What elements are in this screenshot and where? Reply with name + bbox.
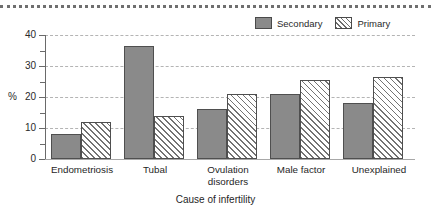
x-tick-label-tubal: Tubal <box>115 164 195 176</box>
plot-area: 40 30 20 10 0 % Endometriosis Tubal Ovul… <box>0 0 431 216</box>
y-tick-label-40: 40 <box>14 30 36 40</box>
y-tick-minor-5 <box>40 144 45 145</box>
y-axis-title: % <box>8 91 17 102</box>
y-tick-major-10 <box>39 128 45 129</box>
bar-unexplained-secondary[interactable] <box>343 103 373 159</box>
bar-endometriosis-primary[interactable] <box>81 122 111 159</box>
y-tick-label-10: 10 <box>14 123 36 133</box>
x-tick-label-unexplained: Unexplained <box>334 164 424 176</box>
gridline-30 <box>45 66 415 67</box>
x-axis-line <box>45 159 415 160</box>
bar-ovulation-disorders-secondary[interactable] <box>197 109 227 159</box>
x-axis-title: Cause of infertility <box>0 194 431 205</box>
gridline-40 <box>45 35 415 36</box>
bar-ovulation-disorders-primary[interactable] <box>227 94 257 159</box>
y-axis-line <box>45 35 46 159</box>
y-tick-major-20 <box>39 97 45 98</box>
y-tick-minor-15 <box>40 113 45 114</box>
x-tick-label-ovulation-line2: disorders <box>188 176 268 188</box>
bar-tubal-primary[interactable] <box>154 116 184 159</box>
bar-endometriosis-secondary[interactable] <box>51 134 81 159</box>
y-tick-label-20: 20 <box>14 92 36 102</box>
y-tick-major-0 <box>39 159 45 160</box>
bar-male-factor-primary[interactable] <box>300 80 330 159</box>
y-tick-minor-25 <box>40 82 45 83</box>
y-tick-major-40 <box>39 35 45 36</box>
y-tick-major-30 <box>39 66 45 67</box>
y-tick-minor-35 <box>40 51 45 52</box>
bar-male-factor-secondary[interactable] <box>270 94 300 159</box>
y-tick-label-0: 0 <box>14 154 36 164</box>
bar-unexplained-primary[interactable] <box>373 77 403 159</box>
chart-figure: Secondary Primary 40 30 20 10 0 <box>0 0 431 216</box>
x-tick-label-ovulation-disorders: Ovulation disorders <box>188 164 268 187</box>
bar-tubal-secondary[interactable] <box>124 46 154 159</box>
x-tick-label-male-factor: Male factor <box>261 164 341 176</box>
y-tick-label-30: 30 <box>14 61 36 71</box>
x-tick-label-ovulation-line1: Ovulation <box>188 164 268 176</box>
